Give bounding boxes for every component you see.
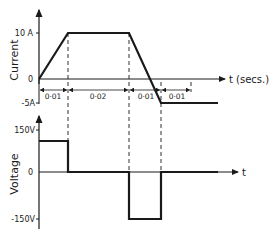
current-graph: 10 A 0 -5A 0·01 0·02 0·01 0·01 t (secs.)…	[8, 10, 269, 108]
current-x-label: t (secs.)	[229, 74, 269, 85]
tick-label-10a: 10 A	[15, 29, 34, 38]
tick-label-minus-150v: -150V	[11, 215, 35, 224]
interval-label-3: 0·01	[138, 92, 155, 101]
voltage-waveform	[39, 141, 218, 219]
tick-label-zero-current: 0	[28, 75, 33, 84]
voltage-graph: 150V 0 -150V t Voltage	[8, 116, 246, 229]
current-y-label: Current	[8, 39, 21, 81]
waveform-diagram: 10 A 0 -5A 0·01 0·02 0·01 0·01 t (secs.)…	[0, 0, 277, 237]
tick-label-minus-5a: -5A	[22, 99, 36, 108]
voltage-y-label: Voltage	[8, 153, 21, 194]
current-waveform	[39, 33, 218, 103]
interval-label-4: 0·01	[169, 92, 186, 101]
voltage-x-label: t	[242, 167, 246, 178]
interval-label-1: 0·01	[45, 92, 62, 101]
interval-label-2: 0·02	[90, 92, 107, 101]
tick-label-150v: 150V	[14, 126, 35, 135]
tick-label-zero-voltage: 0	[28, 168, 33, 177]
